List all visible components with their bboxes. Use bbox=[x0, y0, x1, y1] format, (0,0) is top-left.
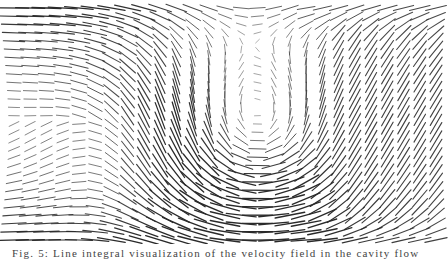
field-segment bbox=[397, 41, 410, 59]
field-segment bbox=[414, 114, 426, 134]
field-segment bbox=[41, 121, 52, 126]
field-segment bbox=[430, 57, 442, 75]
field-segment bbox=[272, 54, 275, 62]
field-segment bbox=[381, 33, 394, 50]
field-segment bbox=[53, 206, 72, 208]
field-segment bbox=[429, 33, 443, 49]
field-segment bbox=[272, 62, 276, 70]
field-segment bbox=[23, 91, 37, 92]
field-segment bbox=[8, 99, 20, 100]
field-segment bbox=[38, 74, 54, 76]
field-segment bbox=[7, 82, 21, 83]
field-segment bbox=[413, 181, 427, 199]
field-segment bbox=[398, 131, 410, 151]
field-segment bbox=[398, 114, 409, 134]
field-segment bbox=[365, 130, 377, 150]
field-segment bbox=[41, 154, 53, 159]
field-segment bbox=[381, 156, 393, 176]
field-segment bbox=[71, 190, 86, 191]
field-segment bbox=[55, 189, 70, 192]
field-segment bbox=[266, 6, 282, 9]
field-segment bbox=[411, 218, 430, 229]
field-segment bbox=[365, 32, 378, 50]
field-segment bbox=[397, 164, 410, 183]
field-segment bbox=[381, 41, 393, 59]
field-segment bbox=[349, 48, 360, 67]
field-segment bbox=[272, 37, 275, 45]
field-segment bbox=[241, 103, 242, 113]
field-segment bbox=[379, 198, 395, 215]
field-segment bbox=[222, 29, 229, 37]
field-segment bbox=[5, 57, 23, 58]
field-segment bbox=[87, 197, 103, 200]
field-segment bbox=[214, 158, 236, 173]
field-segment bbox=[86, 62, 104, 69]
field-segment bbox=[315, 20, 330, 30]
field-segment bbox=[88, 181, 102, 184]
field-segment bbox=[294, 175, 319, 189]
field-segment bbox=[298, 14, 314, 19]
field-segment bbox=[223, 37, 227, 46]
field-segment bbox=[239, 63, 244, 70]
field-segment bbox=[365, 40, 377, 58]
field-segment bbox=[122, 125, 134, 141]
field-segment bbox=[346, 5, 364, 11]
field-segment bbox=[55, 90, 70, 92]
field-segment bbox=[120, 59, 136, 73]
field-segment bbox=[429, 190, 443, 207]
field-segment bbox=[350, 64, 361, 84]
field-segment bbox=[117, 210, 138, 220]
field-segment bbox=[251, 16, 263, 17]
field-segment bbox=[334, 41, 344, 59]
field-segment bbox=[57, 155, 69, 160]
field-segment bbox=[398, 139, 410, 159]
field-segment bbox=[285, 21, 295, 29]
field-segment bbox=[298, 149, 315, 166]
field-segment bbox=[73, 165, 86, 167]
field-segment bbox=[89, 130, 102, 134]
field-segment bbox=[414, 65, 426, 84]
field-segment bbox=[313, 6, 331, 10]
field-segment bbox=[121, 99, 134, 117]
field-segment bbox=[254, 74, 261, 76]
field-segment bbox=[238, 31, 245, 35]
field-segment bbox=[73, 148, 85, 150]
field-segment bbox=[57, 130, 68, 134]
field-segment bbox=[6, 189, 23, 192]
field-segment bbox=[235, 15, 248, 17]
field-segment bbox=[398, 122, 410, 142]
field-segment bbox=[413, 33, 427, 49]
field-segment bbox=[430, 65, 442, 83]
field-segment bbox=[235, 136, 248, 145]
field-segment bbox=[134, 191, 153, 206]
field-segment bbox=[398, 147, 410, 167]
field-segment bbox=[350, 73, 361, 93]
field-segment bbox=[430, 98, 441, 117]
field-segment bbox=[379, 208, 397, 223]
field-segment bbox=[68, 223, 90, 224]
field-segment bbox=[136, 42, 152, 56]
field-segment bbox=[366, 73, 377, 93]
field-segment bbox=[334, 49, 343, 67]
field-segment bbox=[430, 156, 442, 175]
field-segment bbox=[398, 73, 410, 92]
field-segment bbox=[129, 236, 158, 244]
field-segment bbox=[21, 57, 39, 58]
field-segment bbox=[122, 133, 134, 149]
field-segment bbox=[347, 18, 362, 30]
field-segment bbox=[121, 91, 134, 108]
field-segment bbox=[122, 107, 134, 125]
field-segment bbox=[207, 43, 211, 56]
field-segment bbox=[246, 165, 270, 166]
field-segment bbox=[396, 190, 411, 208]
field-segment bbox=[241, 46, 242, 53]
field-segment bbox=[40, 99, 53, 100]
field-segment bbox=[73, 156, 85, 158]
figure-caption: Fig. 5: Line integral visualization of t… bbox=[12, 246, 442, 262]
field-segment bbox=[89, 147, 101, 150]
field-segment bbox=[411, 19, 428, 30]
field-segment bbox=[122, 141, 134, 156]
field-segment bbox=[122, 150, 134, 165]
field-segment bbox=[25, 121, 35, 126]
field-segment bbox=[8, 91, 21, 92]
